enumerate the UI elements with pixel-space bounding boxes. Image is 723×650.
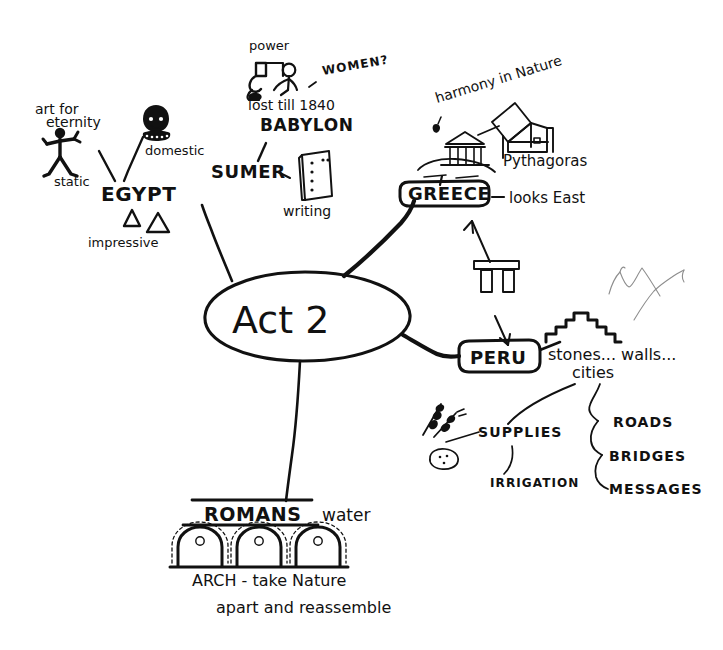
connector-women-pointer	[309, 82, 316, 87]
label-stones-walls: stones... walls...	[548, 345, 676, 364]
label-power: power	[249, 38, 290, 53]
clay-tablet-icon	[299, 151, 332, 200]
label-art-for-eternity-line2: eternity	[46, 114, 101, 130]
label-impressive: impressive	[88, 235, 158, 250]
connector-wheat-to-supplies	[446, 432, 479, 442]
connector-supplies-to-irrigation	[504, 446, 513, 474]
connector-babylon-to-sumer	[258, 143, 266, 161]
arrowhead-to-greece	[464, 221, 473, 233]
branch-sumer[interactable]: SUMER writing	[211, 151, 332, 219]
label-static: static	[54, 174, 90, 189]
label-lost-till-1840: lost till 1840	[248, 97, 335, 113]
pythagoras-theorem-icon	[478, 103, 553, 158]
node-peru-box[interactable]: PERU	[459, 340, 540, 372]
connector-roads-to-bridges	[591, 421, 602, 455]
node-greece-box[interactable]: GREECE	[400, 181, 490, 206]
center-label: Act 2	[232, 298, 329, 342]
label-arch-line2: apart and reassemble	[216, 598, 391, 617]
mindmap-canvas: Act 2 art for eternity static	[0, 0, 723, 650]
label-harmony-in-nature: harmony in Nature	[433, 52, 563, 106]
mindmap-svg: Act 2 art for eternity static	[0, 0, 723, 650]
node-babylon-label: BABYLON	[260, 115, 354, 135]
egyptian-figure-icon	[43, 128, 80, 176]
inca-wall-icon	[546, 313, 621, 342]
branch-greece[interactable]: harmony in Nature Pythagoras	[400, 52, 588, 292]
label-bridges: BRIDGES	[609, 448, 686, 464]
bust-head-icon	[143, 105, 170, 141]
connector-cities-to-roads	[589, 384, 600, 421]
connector-center-to-romans	[286, 361, 300, 501]
branch-babylon[interactable]: power WOMEN? lost till 1840 BABYLON	[248, 38, 390, 161]
label-arch-line1: ARCH - take Nature	[192, 571, 346, 590]
connector-center-to-greece	[344, 201, 414, 276]
label-women: WOMEN?	[321, 53, 390, 78]
wheat-stalks-icon	[423, 404, 466, 469]
branch-peru[interactable]: PERU stones... walls... cities	[423, 267, 703, 497]
node-peru-label: PERU	[470, 347, 526, 368]
arrow-trilithon-to-greece	[472, 221, 490, 262]
label-domestic: domestic	[145, 143, 205, 158]
trilithon-icon	[474, 261, 519, 292]
branch-egypt[interactable]: art for eternity static domestic	[35, 101, 205, 250]
two-figures-icon	[248, 63, 297, 101]
mountains-icon	[609, 267, 684, 320]
node-romans-label: ROMANS	[204, 503, 302, 525]
label-messages: MESSAGES	[609, 481, 703, 497]
greek-temple-icon	[418, 117, 495, 185]
connector-domestic-to-egypt	[124, 137, 143, 181]
node-egypt-label: EGYPT	[101, 182, 176, 206]
branch-romans[interactable]: ROMANS water ARCH - take Nature apart an…	[170, 500, 391, 617]
label-looks-east: looks East	[509, 189, 585, 207]
connector-bridges-to-messages	[595, 455, 608, 489]
connector-static-to-egypt	[99, 151, 115, 181]
label-supplies: SUPPLIES	[478, 424, 563, 440]
aqueduct-arches-icon	[170, 522, 348, 567]
label-water: water	[322, 505, 370, 525]
connector-center-to-sumer	[202, 205, 232, 281]
label-pythagoras: Pythagoras	[503, 152, 588, 170]
connector-center-to-peru	[403, 335, 459, 357]
label-roads: ROADS	[613, 414, 673, 430]
label-cities: cities	[572, 363, 614, 382]
label-irrigation: IRRIGATION	[490, 476, 580, 490]
node-greece-label: GREECE	[408, 183, 490, 204]
node-sumer-label: SUMER	[211, 161, 286, 182]
pyramid-icon	[124, 210, 169, 232]
center-node[interactable]: Act 2	[205, 272, 410, 361]
label-writing: writing	[283, 203, 331, 219]
connector-cities-to-supplies	[508, 384, 575, 424]
